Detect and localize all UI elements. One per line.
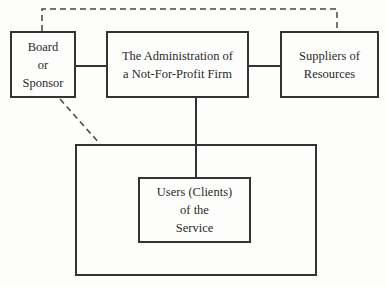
diagram-canvas: Board or Sponsor The Administration of a… <box>0 0 386 287</box>
board-node: Board or Sponsor <box>10 31 76 98</box>
administration-label: The Administration of a Not-For-Profit F… <box>122 47 233 83</box>
suppliers-label: Suppliers of Resources <box>299 47 360 83</box>
suppliers-node: Suppliers of Resources <box>280 31 379 98</box>
dashed-edge-board-environment <box>60 99 100 144</box>
users-label: Users (Clients) of the Service <box>157 183 232 237</box>
dashed-edge-board-suppliers <box>42 9 337 31</box>
administration-node: The Administration of a Not-For-Profit F… <box>106 31 249 98</box>
board-label: Board or Sponsor <box>23 38 64 92</box>
users-node: Users (Clients) of the Service <box>138 177 251 243</box>
